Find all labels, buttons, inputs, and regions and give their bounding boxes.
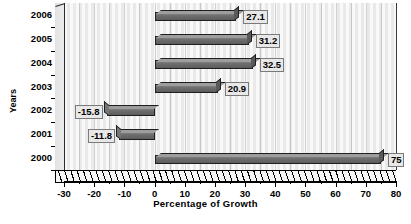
y-axis-tick-label: 2003 [6, 81, 52, 92]
y-axis-tick-label: 2004 [6, 57, 52, 68]
x-axis-title: Percentage of Growth [0, 198, 411, 209]
x-axis-minor-tick [381, 181, 382, 184]
y-axis-tick-label: 2002 [6, 104, 52, 115]
gridline [139, 3, 140, 170]
x-axis-minor-tick [139, 181, 140, 184]
bar-value-label: 31.2 [256, 34, 281, 48]
bar [155, 60, 253, 69]
gridline [79, 3, 80, 170]
bar-top-face [104, 105, 159, 109]
x-axis-major-tick [124, 181, 125, 187]
x-axis-major-tick [305, 181, 306, 187]
x-axis-major-tick [396, 181, 397, 187]
gridline [381, 3, 382, 170]
x-axis-major-tick [275, 181, 276, 187]
plot-left-edge [64, 3, 65, 170]
bar-top-face [156, 10, 245, 14]
x-axis-major-tick [155, 181, 156, 187]
gridline [290, 3, 291, 170]
gridline [396, 3, 397, 170]
x-axis-major-tick [185, 181, 186, 187]
x-axis-major-tick [366, 181, 367, 187]
gridline [109, 3, 110, 170]
bar [155, 36, 249, 45]
gridline [366, 3, 367, 170]
bar-top-face [116, 129, 159, 133]
bar-value-label: 75 [388, 153, 405, 167]
bar-value-label: 32.5 [260, 58, 285, 72]
x-axis-minor-tick [109, 181, 110, 184]
bar [119, 131, 155, 140]
bar-chart: Years 2006200520042003200220012000 -30-2… [0, 0, 411, 224]
bar [155, 84, 218, 93]
x-axis-minor-tick [351, 181, 352, 184]
y-axis-tick-label: 2006 [6, 9, 52, 20]
bar-value-label: 20.9 [225, 82, 250, 96]
x-axis-major-tick [64, 181, 65, 187]
x-axis-minor-tick [260, 181, 261, 184]
gridline [305, 3, 306, 170]
gridline [94, 3, 95, 170]
y-axis-tick-label: 2000 [6, 152, 52, 163]
x-axis-major-tick [336, 181, 337, 187]
gridline [124, 3, 125, 170]
x-axis-major-tick [94, 181, 95, 187]
bar-top-face [156, 153, 389, 157]
x-axis-minor-tick [290, 181, 291, 184]
bar [155, 12, 237, 21]
bar [155, 155, 381, 164]
x-axis-minor-tick [230, 181, 231, 184]
gridline [351, 3, 352, 170]
x-axis-minor-tick [321, 181, 322, 184]
y-axis-tick-labels: 2006200520042003200220012000 [0, 0, 52, 180]
bar-value-label: -11.8 [88, 129, 115, 143]
x-axis-minor-tick [79, 181, 80, 184]
bar [107, 107, 155, 116]
y-axis-tick-label: 2005 [6, 33, 52, 44]
bar-top-face [156, 34, 257, 38]
x-axis-major-tick [215, 181, 216, 187]
source-note [4, 218, 264, 224]
bar-value-label: 27.1 [243, 10, 268, 24]
gridline [275, 3, 276, 170]
x-axis-minor-tick [170, 181, 171, 184]
gridline [321, 3, 322, 170]
gridline [260, 3, 261, 170]
plot-floor-left-edge [55, 170, 56, 181]
x-axis-minor-tick [200, 181, 201, 184]
bar-value-label: -15.8 [75, 105, 103, 119]
y-axis-tick-label: 2001 [6, 128, 52, 139]
bar-top-face [156, 58, 261, 62]
gridline [336, 3, 337, 170]
x-axis-major-tick [245, 181, 246, 187]
